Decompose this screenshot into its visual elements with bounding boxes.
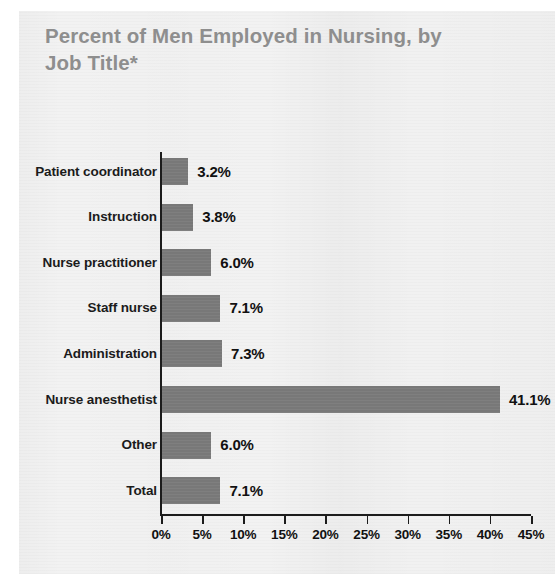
- category-label: Instruction: [88, 209, 157, 224]
- bar: [162, 249, 211, 276]
- bar-value-label: 3.8%: [202, 208, 235, 225]
- x-axis-tick: [367, 516, 369, 524]
- bar-value-label: 41.1%: [509, 391, 551, 408]
- category-label: Administration: [63, 346, 157, 361]
- x-axis-tick: [284, 516, 286, 524]
- x-axis-tick-label: 10%: [230, 527, 256, 542]
- x-axis-tick: [531, 516, 533, 524]
- bar-value-label: 7.1%: [229, 482, 262, 499]
- bar-value-label: 6.0%: [220, 436, 253, 453]
- bar: [162, 158, 188, 185]
- x-axis-tick-label: 35%: [436, 527, 462, 542]
- category-label: Nurse anesthetist: [45, 392, 157, 407]
- x-axis-tick-label: 15%: [271, 527, 297, 542]
- x-axis-tick-label: 5%: [193, 527, 212, 542]
- x-axis-tick-label: 25%: [353, 527, 379, 542]
- x-axis-tick: [325, 516, 327, 524]
- x-axis-tick-label: 20%: [312, 527, 338, 542]
- bar: [162, 204, 193, 231]
- x-axis-tick: [490, 516, 492, 524]
- bar: [162, 386, 500, 413]
- bar-value-label: 7.3%: [231, 345, 264, 362]
- x-axis-tick: [243, 516, 245, 524]
- bar: [162, 477, 220, 504]
- bar-value-label: 3.2%: [197, 163, 230, 180]
- x-axis-tick-label: 45%: [518, 527, 544, 542]
- chart-figure: Percent of Men Employed in Nursing, by J…: [0, 0, 555, 574]
- x-axis-tick-label: 40%: [477, 527, 503, 542]
- category-label: Nurse practitioner: [43, 255, 157, 270]
- bar-value-label: 6.0%: [220, 254, 253, 271]
- plot-area: Patient coordinator3.2%Instruction3.8%Nu…: [0, 0, 555, 574]
- bar: [162, 295, 220, 322]
- category-label: Other: [121, 437, 157, 452]
- x-axis-tick: [202, 516, 204, 524]
- bar-value-label: 7.1%: [229, 299, 262, 316]
- x-axis-tick: [408, 516, 410, 524]
- category-label: Patient coordinator: [35, 164, 157, 179]
- bar: [162, 340, 222, 367]
- x-axis-line: [160, 514, 531, 516]
- x-axis-tick: [161, 516, 163, 524]
- category-label: Staff nurse: [88, 300, 157, 315]
- x-axis-tick: [449, 516, 451, 524]
- bar: [162, 432, 211, 459]
- category-label: Total: [126, 483, 157, 498]
- x-axis-tick-label: 30%: [394, 527, 420, 542]
- x-axis-tick-label: 0%: [151, 527, 170, 542]
